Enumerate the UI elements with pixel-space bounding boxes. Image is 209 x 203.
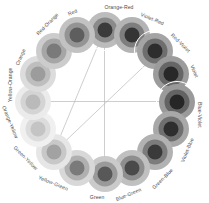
wheel-label-violet-red: Violet-Red [140, 11, 165, 26]
wheel-label-yellow-orange: Yellow-Orange [7, 67, 13, 102]
wheel-label-green: Green [90, 194, 105, 200]
wheel-label-violet: Violet [189, 64, 200, 79]
wheel-label-green-yellow: Green-Yellow [13, 144, 40, 171]
wheel-label-orange-red: Orange-Red [105, 4, 134, 10]
wheel-label-red-orange: Red-Orange [35, 12, 60, 37]
label-ring: Orange-RedViolet-RedRed-VioletVioletBlue… [0, 0, 209, 203]
color-wheel-figure: Orange-RedViolet-RedRed-VioletVioletBlue… [0, 0, 209, 203]
wheel-label-orange: Orange [14, 48, 26, 67]
wheel-label-violet-blue: Violet-Blue [180, 137, 195, 163]
wheel-label-red-violet: Red-Violet [170, 32, 192, 54]
wheel-label-blue-green: Blue-Green [115, 186, 142, 202]
wheel-label-green-blue: Green-Blue [150, 167, 173, 190]
wheel-label-red: Red [67, 7, 78, 16]
wheel-label-blue-violet: Blue-Violet [197, 102, 203, 128]
wheel-label-yellow-green: Yellow-Green [38, 174, 69, 192]
wheel-label-orange-yellow: Orange-Yellow [1, 105, 20, 139]
